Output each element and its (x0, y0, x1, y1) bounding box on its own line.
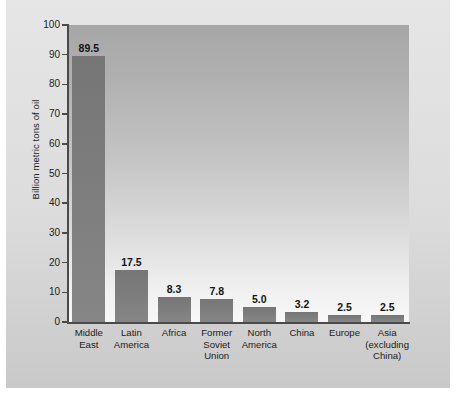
y-axis-tick-mark (62, 143, 68, 145)
y-axis-tick-mark (62, 292, 68, 294)
bar[interactable] (243, 307, 276, 322)
bar[interactable] (115, 270, 148, 322)
category-label-line: America (234, 339, 285, 351)
category-label-line: America (106, 339, 157, 351)
y-axis-tick-mark (62, 262, 68, 264)
y-axis-tick-mark (62, 113, 68, 115)
y-axis-tick-mark (62, 232, 68, 234)
y-axis-tick-mark (62, 24, 68, 26)
chart-figure: Billion metric tons of oil 1009080706050… (0, 0, 456, 401)
y-axis-tick-label: 50 (34, 168, 60, 179)
y-axis-tick-label: 100 (34, 19, 60, 30)
bar[interactable] (328, 315, 361, 322)
y-axis-tick-label: 0 (34, 316, 60, 327)
bar-value-label: 17.5 (101, 256, 161, 268)
y-axis-tick-label: 40 (34, 197, 60, 208)
bar[interactable] (158, 297, 191, 322)
y-axis-tick-mark (62, 84, 68, 86)
y-axis-tick-mark (62, 321, 68, 323)
y-axis-tick-label: 30 (34, 227, 60, 238)
bar-value-label: 2.5 (357, 301, 417, 313)
y-axis-tick-label: 90 (34, 49, 60, 60)
y-axis-tick-label: 20 (34, 257, 60, 268)
x-axis-line (67, 322, 410, 324)
category-label-line: Union (191, 350, 242, 362)
y-axis-tick-mark (62, 202, 68, 204)
y-axis-tick-mark (62, 173, 68, 175)
bar[interactable] (200, 299, 233, 322)
y-axis-tick-label: 80 (34, 78, 60, 89)
y-axis-tick-label: 10 (34, 286, 60, 297)
category-label-line: Asia (362, 327, 413, 339)
bar-value-label: 89.5 (59, 42, 119, 54)
bar[interactable] (371, 315, 404, 322)
x-axis-category-label: Asia(excludingChina) (362, 327, 413, 362)
y-axis-tick-label: 70 (34, 108, 60, 119)
chart-card: Billion metric tons of oil 1009080706050… (6, 0, 450, 388)
bar[interactable] (72, 56, 105, 322)
y-axis-tick-label: 60 (34, 138, 60, 149)
category-label-line: China) (362, 350, 413, 362)
category-label-line: (excluding (362, 339, 413, 351)
bar[interactable] (285, 312, 318, 322)
